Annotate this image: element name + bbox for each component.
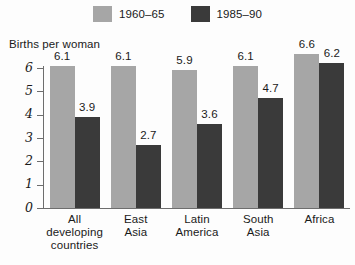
bar-value-label: 6.1 <box>105 50 142 62</box>
bar-value-label: 6.1 <box>227 50 264 62</box>
y-axis-tick-mark <box>37 185 43 186</box>
category-label-line: Africa <box>281 213 355 226</box>
y-axis-tick-mark <box>37 138 43 139</box>
y-axis-tick-mark <box>37 115 43 116</box>
category-label-line: countries <box>36 239 113 252</box>
x-axis-baseline <box>43 208 350 209</box>
y-axis-tick-label: 5 <box>11 85 33 98</box>
bar-value-label: 6.1 <box>44 50 81 62</box>
bar <box>258 98 283 208</box>
y-axis-tick-mark <box>37 208 43 209</box>
y-axis-tick-label: 1 <box>11 178 33 191</box>
y-axis-line <box>43 66 44 209</box>
x-axis-category-label: Africa <box>281 213 355 226</box>
y-axis-tick-label: 2 <box>11 155 33 168</box>
bar <box>319 63 344 208</box>
bar-value-label: 4.7 <box>252 82 289 94</box>
bar <box>50 66 75 208</box>
bar-value-label: 6.2 <box>313 47 350 59</box>
bar <box>136 145 161 208</box>
category-label-line: Asia <box>220 226 297 239</box>
y-axis-tick-mark <box>37 68 43 69</box>
y-axis-tick-mark <box>37 91 43 92</box>
bar <box>172 70 197 208</box>
y-axis-tick-mark <box>37 161 43 162</box>
bar-value-label: 5.9 <box>166 54 203 66</box>
bar <box>197 124 222 208</box>
y-axis-tick-label: 6 <box>11 62 33 75</box>
chart-plot-area: 0123456 6.13.96.12.75.93.66.14.76.66.2 A… <box>0 0 355 265</box>
bar-value-label: 3.6 <box>191 108 228 120</box>
y-axis-tick-label: 0 <box>11 202 33 215</box>
bar <box>294 54 319 208</box>
bar-value-label: 3.9 <box>69 101 106 113</box>
y-axis-tick-label: 3 <box>11 132 33 145</box>
y-axis-tick-label: 4 <box>11 108 33 121</box>
bar <box>75 117 100 208</box>
bar-value-label: 2.7 <box>130 129 167 141</box>
